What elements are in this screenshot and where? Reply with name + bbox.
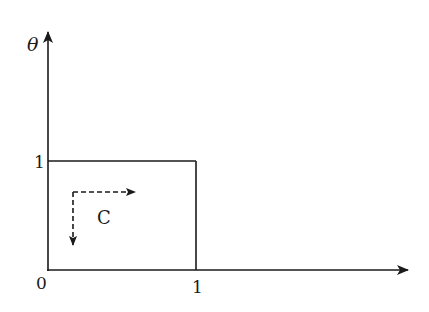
- origin-label: 0: [36, 273, 47, 293]
- diagram-canvas: θ 1 0 1 C: [0, 0, 429, 312]
- contour-label: C: [97, 207, 111, 228]
- y-tick-label: 1: [34, 152, 45, 172]
- x-tick-label: 1: [192, 277, 203, 297]
- unit-square-region: [48, 161, 196, 270]
- y-axis-label: θ: [27, 33, 39, 55]
